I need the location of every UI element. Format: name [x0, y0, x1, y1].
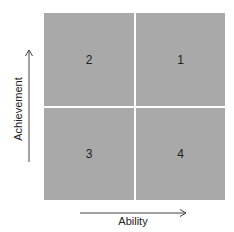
axis-arrows — [0, 0, 234, 232]
x-axis-label: Ability — [93, 215, 173, 227]
y-axis-label: Achievement — [12, 69, 24, 149]
y-axis-arrow-icon — [26, 50, 33, 162]
